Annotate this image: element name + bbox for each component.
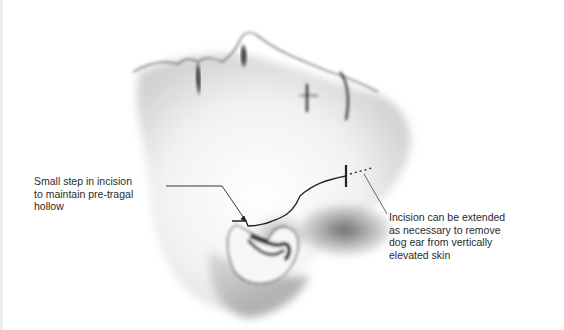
- annotation-line: elevated skin: [389, 249, 505, 262]
- annotation-pretragal-step: Small step in incisionto maintain pre-tr…: [34, 175, 133, 213]
- annotation-line: hollow: [34, 200, 133, 213]
- face-illustration: [0, 0, 564, 330]
- annotation-line: as necessary to remove: [389, 224, 505, 237]
- annotation-incision-extension: Incision can be extendedas necessary to …: [389, 211, 505, 261]
- illustration-frame: Small step in incisionto maintain pre-tr…: [0, 0, 564, 330]
- annotation-line: Small step in incision: [34, 175, 133, 188]
- annotation-line: Incision can be extended: [389, 211, 505, 224]
- annotation-line: dog ear from vertically: [389, 236, 505, 249]
- annotation-line: to maintain pre-tragal: [34, 188, 133, 201]
